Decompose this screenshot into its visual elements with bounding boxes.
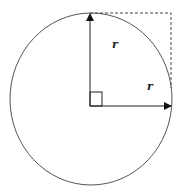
radius-label-horizontal: r [147,80,154,93]
right-angle-marker [90,92,102,106]
radius-label-vertical: r [112,38,119,51]
circle [10,13,172,185]
circle-radius-diagram: r r [0,0,182,191]
